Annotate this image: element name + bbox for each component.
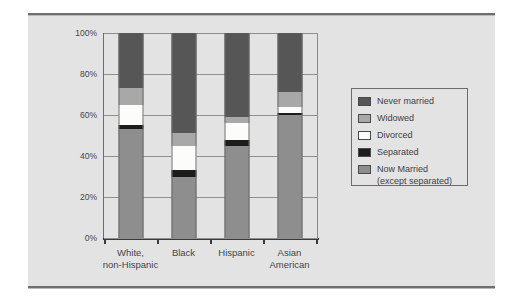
legend-item[interactable]: Divorced [358,130,413,142]
x-tick-label: Black [172,247,195,259]
bar-segment [277,115,302,238]
bar-segment [224,117,249,123]
legend-label: Never married [377,96,434,108]
bar-segment [224,123,249,139]
bar-segment [277,33,302,92]
legend-swatch-icon [358,97,371,106]
bar-segment [118,129,143,238]
y-tick-label: 0% [85,233,97,243]
legend-label: Divorced [377,130,413,142]
legend-swatch-icon [358,114,371,123]
bar-segment [224,140,249,146]
bar-segment [171,170,196,176]
bar-segment [171,146,196,171]
plot-frame-right [317,33,318,238]
bar-segment [118,125,143,129]
legend-item[interactable]: Widowed [358,113,414,125]
legend-label: Now Married(except separated) [377,164,452,187]
x-axis-tick [263,239,265,244]
bar-segment [171,133,196,145]
legend-swatch-icon [358,165,371,174]
x-tick-label: AsianAmerican [269,247,309,271]
bar-segment [118,33,143,88]
y-tick-label: 20% [80,192,97,202]
legend-swatch-icon [358,131,371,140]
x-axis-tick [104,239,106,244]
bar-segment [118,88,143,104]
legend-item[interactable]: Now Married(except separated) [358,164,452,187]
figure: 100% 80% 60% 40% 20% 0% White,non-Hispan… [0,0,519,305]
bar-segment [118,105,143,126]
y-tick-label: 60% [80,110,97,120]
bar-segment [277,92,302,106]
bar-segment [224,33,249,117]
bar-segment [171,33,196,133]
bar-segment [171,177,196,239]
legend-label: Widowed [377,113,414,125]
y-tick-label: 40% [80,151,97,161]
legend-item[interactable]: Never married [358,96,434,108]
chart-legend: Never marriedWidowedDivorcedSeparatedNow… [351,88,468,186]
bottom-rule [28,286,495,289]
stacked-bar [171,33,196,238]
x-axis-tick [157,239,159,244]
plot-area: 100% 80% 60% 40% 20% 0% White,non-Hispan… [103,33,318,238]
legend-label: Separated [377,147,419,159]
top-rule [28,13,495,16]
x-tick-label: White,non-Hispanic [103,247,158,271]
stacked-bar [118,33,143,238]
stacked-bar [224,33,249,238]
legend-item[interactable]: Separated [358,147,419,159]
x-tick-label: Hispanic [218,247,254,259]
stacked-bar [277,33,302,238]
y-tick-label: 80% [80,69,97,79]
bar-segment [224,146,249,238]
bar-segment [277,107,302,113]
x-axis-tick [316,239,318,244]
y-tick-label: 100% [75,28,97,38]
bar-segment [277,113,302,115]
legend-swatch-icon [358,148,371,157]
x-axis-tick [210,239,212,244]
